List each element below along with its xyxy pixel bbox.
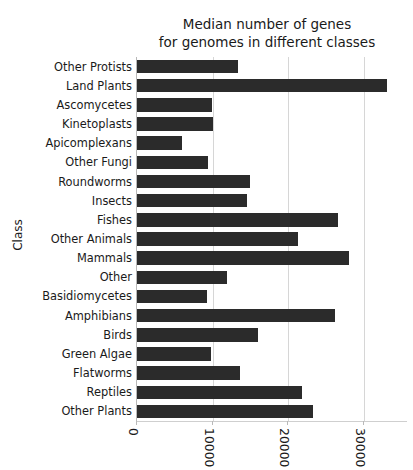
bar [137, 271, 227, 285]
x-tick-mark [136, 421, 137, 425]
x-axis-tick-labels: 0100002000030000 [0, 421, 413, 470]
bar [137, 156, 208, 170]
x-tick-mark [212, 421, 213, 425]
y-tick-label: Other [4, 270, 132, 284]
bar [137, 117, 213, 131]
bar [137, 347, 211, 361]
bar [137, 328, 258, 342]
bar-row [137, 210, 338, 229]
bar [137, 290, 207, 304]
gridline [364, 57, 365, 421]
bar [137, 386, 302, 400]
x-tick-label: 20000 [277, 428, 292, 467]
y-tick-label: Birds [4, 328, 132, 342]
y-tick-label: Ascomycetes [4, 98, 132, 112]
y-tick-label: Reptiles [4, 385, 132, 399]
y-tick-label: Other Protists [4, 60, 132, 74]
y-tick-label: Kinetoplasts [4, 117, 132, 131]
bar-row [137, 76, 387, 95]
bar-row [137, 57, 238, 76]
y-tick-label: Other Plants [4, 404, 132, 418]
x-tick-mark [363, 421, 364, 425]
y-tick-label: Other Fungi [4, 155, 132, 169]
bar-chart-figure: Median number of genes for genomes in di… [0, 0, 413, 470]
bar [137, 194, 247, 208]
bar-row [137, 153, 208, 172]
bar-row [137, 191, 247, 210]
bar-row [137, 287, 207, 306]
bar [137, 309, 335, 323]
bar-row [137, 229, 298, 248]
bar [137, 136, 182, 150]
y-tick-label: Flatworms [4, 366, 132, 380]
bar [137, 60, 238, 74]
bar-row [137, 344, 211, 363]
bar-row [137, 268, 227, 287]
bar-row [137, 325, 258, 344]
bar [137, 232, 298, 246]
y-tick-label: Basidiomycetes [4, 289, 132, 303]
bar [137, 366, 240, 380]
bar [137, 175, 250, 189]
y-tick-label: Green Algae [4, 347, 132, 361]
y-tick-label: Other Animals [4, 232, 132, 246]
bar-row [137, 249, 349, 268]
bar [137, 98, 212, 112]
y-tick-label: Apicomplexans [4, 136, 132, 150]
bar-row [137, 364, 240, 383]
bar [137, 213, 338, 227]
bar-row [137, 383, 302, 402]
y-tick-label: Roundworms [4, 175, 132, 189]
bar-row [137, 306, 335, 325]
bar-row [137, 114, 213, 133]
y-axis-tick-labels: Other ProtistsLand PlantsAscomycetesKine… [0, 57, 132, 421]
x-tick-mark [287, 421, 288, 425]
y-tick-label: Insects [4, 194, 132, 208]
bar [137, 251, 349, 265]
x-tick-label: 10000 [202, 428, 217, 467]
y-tick-label: Amphibians [4, 309, 132, 323]
bar [137, 79, 387, 93]
chart-title: Median number of genes for genomes in di… [136, 16, 398, 52]
plot-area [136, 57, 407, 421]
x-tick-label: 0 [126, 428, 141, 436]
y-tick-label: Fishes [4, 213, 132, 227]
y-tick-label: Mammals [4, 251, 132, 265]
bar-row [137, 402, 313, 421]
x-tick-label: 30000 [353, 428, 368, 467]
bar [137, 405, 313, 419]
y-tick-label: Land Plants [4, 79, 132, 93]
bar-row [137, 134, 182, 153]
bar-row [137, 172, 250, 191]
bar-row [137, 95, 212, 114]
